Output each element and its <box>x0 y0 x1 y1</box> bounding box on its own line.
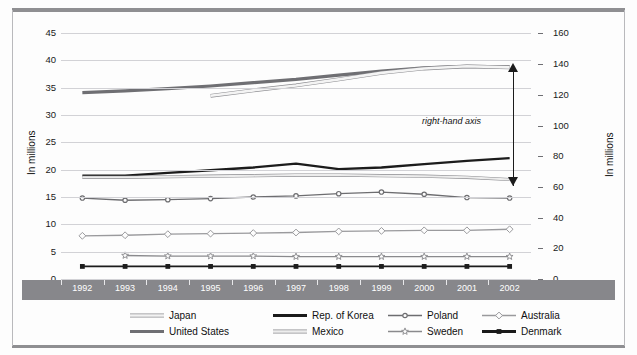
x-tick-label: 1997 <box>274 283 318 293</box>
series-united-states <box>82 66 509 92</box>
gridline <box>61 33 531 34</box>
x-tick-mark <box>403 280 404 285</box>
x-tick-label: 1993 <box>103 283 147 293</box>
data-point-marker <box>164 252 171 259</box>
right-tick-mark <box>538 64 543 65</box>
x-tick-label: 2001 <box>445 283 489 293</box>
data-point-marker <box>164 231 171 238</box>
right-tick-label: 140 <box>553 58 579 69</box>
data-point-marker <box>464 227 471 234</box>
legend-swatch-icon <box>273 310 307 321</box>
data-point-marker <box>336 264 341 269</box>
right-tick-mark <box>538 218 543 219</box>
gridline <box>61 60 531 61</box>
right-tick-label: 40 <box>553 212 579 223</box>
x-tick-label: 1994 <box>146 283 190 293</box>
legend-swatch-icon <box>130 326 164 337</box>
x-tick-mark <box>232 280 233 285</box>
right-tick-mark <box>538 95 543 96</box>
left-tick-label: 15 <box>30 191 56 202</box>
data-point-marker <box>165 264 170 269</box>
left-tick-label: 25 <box>30 136 56 147</box>
data-point-marker <box>123 198 127 202</box>
legend-swatch-icon <box>388 326 422 337</box>
legend-label: United States <box>169 326 229 337</box>
series-sweden <box>122 252 513 260</box>
legend-swatch-icon <box>273 326 307 337</box>
data-point-marker <box>80 264 85 269</box>
legend-item-poland[interactable]: Poland <box>388 308 458 323</box>
series-line <box>82 66 509 92</box>
x-tick-mark <box>275 280 276 285</box>
gridline <box>61 170 531 171</box>
left-tick-label: 5 <box>30 246 56 257</box>
x-tick-mark <box>104 280 105 285</box>
right-axis-title: In millions <box>604 133 615 177</box>
series-australia <box>79 226 513 239</box>
data-point-marker <box>293 229 300 236</box>
plot-area <box>61 22 531 279</box>
data-point-marker <box>294 264 299 269</box>
bottom-rule <box>12 345 625 348</box>
x-tick-mark <box>317 280 318 285</box>
gridline <box>61 142 531 143</box>
gridline <box>61 88 531 89</box>
x-tick-label: 2002 <box>488 283 532 293</box>
data-point-marker <box>465 264 470 269</box>
legend-item-mexico[interactable]: Mexico <box>273 324 344 339</box>
legend-item-sweden[interactable]: Sweden <box>388 324 463 339</box>
right-tick-mark <box>538 187 543 188</box>
series-denmark <box>80 264 512 269</box>
legend-label: Poland <box>427 310 458 321</box>
legend-item-rep-of-korea[interactable]: Rep. of Korea <box>273 308 374 323</box>
top-rule <box>12 8 625 12</box>
x-tick-mark <box>446 280 447 285</box>
legend-label: Japan <box>169 310 196 321</box>
left-tick-label: 35 <box>30 82 56 93</box>
data-point-marker <box>335 253 342 260</box>
annotation-arrow-up <box>508 63 518 72</box>
x-tick-label: 1998 <box>317 283 361 293</box>
legend-item-united-states[interactable]: United States <box>130 324 229 339</box>
x-tick-mark <box>488 280 489 285</box>
frame-left-border <box>12 10 13 346</box>
data-point-marker <box>497 329 502 334</box>
legend-item-denmark[interactable]: Denmark <box>482 324 562 339</box>
frame-right-border <box>624 10 625 346</box>
legend-swatch-icon <box>130 310 164 321</box>
data-point-marker <box>507 264 512 269</box>
series-rep-of-korea <box>82 158 509 175</box>
data-point-marker <box>250 230 257 237</box>
data-point-marker <box>208 264 213 269</box>
x-tick-mark <box>189 280 190 285</box>
right-tick-mark <box>538 126 543 127</box>
data-point-marker <box>293 253 300 260</box>
legend-item-australia[interactable]: Australia <box>482 308 560 323</box>
right-tick-mark <box>538 248 543 249</box>
left-tick-label: 20 <box>30 164 56 175</box>
data-point-marker <box>379 190 383 194</box>
data-point-marker <box>421 227 428 234</box>
annotation-arrow-down <box>508 177 518 186</box>
annotation-arrow-shaft <box>513 68 514 186</box>
x-tick-label: 1996 <box>231 283 275 293</box>
left-tick-label: 40 <box>30 54 56 65</box>
legend-label: Mexico <box>312 326 344 337</box>
left-tick-label: 30 <box>30 109 56 120</box>
legend-label: Australia <box>521 310 560 321</box>
right-tick-label: 60 <box>553 181 579 192</box>
x-tick-mark <box>360 280 361 285</box>
data-point-marker <box>506 226 513 233</box>
data-point-marker <box>207 252 214 259</box>
right-tick-label: 100 <box>553 120 579 131</box>
x-tick-label: 1995 <box>189 283 233 293</box>
gridline <box>61 197 531 198</box>
right-tick-label: 120 <box>553 89 579 100</box>
right-tick-label: 20 <box>553 242 579 253</box>
gridline <box>61 224 531 225</box>
legend-label: Rep. of Korea <box>312 310 374 321</box>
legend-item-japan[interactable]: Japan <box>130 308 196 323</box>
data-point-marker <box>422 192 426 196</box>
right-hand-axis-annotation: right-hand axis <box>422 116 481 126</box>
data-point-marker <box>422 264 427 269</box>
